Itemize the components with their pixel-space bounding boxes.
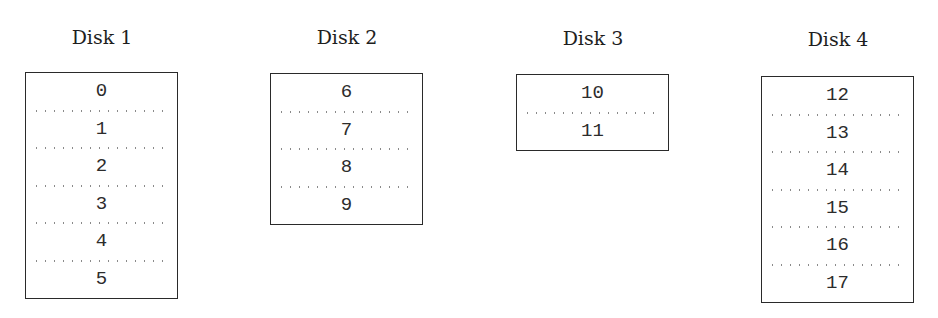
block: 2 xyxy=(26,148,177,186)
disk-title: Disk 2 xyxy=(270,27,424,47)
disk-title: Disk 1 xyxy=(25,27,179,47)
block: 16 xyxy=(762,227,913,265)
block: 15 xyxy=(762,190,913,228)
disk-box: 6 7 8 9 xyxy=(270,73,423,225)
block: 5 xyxy=(26,261,177,299)
disk-title: Disk 3 xyxy=(516,28,670,48)
block: 9 xyxy=(271,187,422,225)
block: 1 xyxy=(26,111,177,149)
block: 8 xyxy=(271,149,422,187)
block: 10 xyxy=(517,75,668,113)
block: 17 xyxy=(762,265,913,303)
block: 3 xyxy=(26,186,177,224)
block: 4 xyxy=(26,223,177,261)
block: 14 xyxy=(762,152,913,190)
disk-box: 12 13 14 15 16 17 xyxy=(761,76,914,303)
block: 6 xyxy=(271,74,422,112)
block: 12 xyxy=(762,77,913,115)
block: 13 xyxy=(762,115,913,153)
block: 7 xyxy=(271,112,422,150)
disk-box: 10 11 xyxy=(516,74,669,151)
disk-box: 0 1 2 3 4 5 xyxy=(25,72,178,299)
block: 11 xyxy=(517,113,668,151)
disk-title: Disk 4 xyxy=(761,29,915,49)
block: 0 xyxy=(26,73,177,111)
